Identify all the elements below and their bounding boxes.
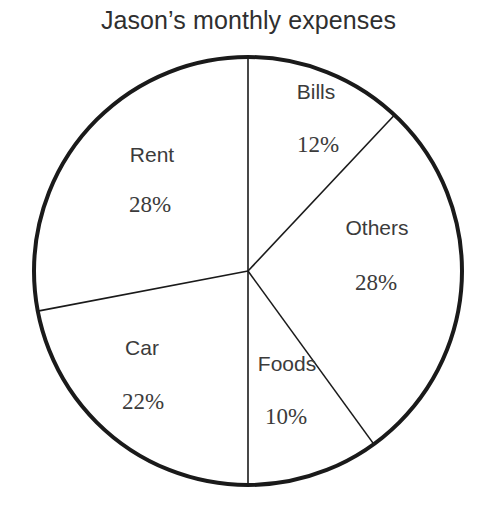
slice-label-foods: Foods [258, 352, 316, 376]
chart-page: Jason’s monthly expenses Bills12%Others2… [0, 0, 497, 515]
slice-value-bills: 12% [297, 132, 339, 158]
slice-label-others: Others [345, 216, 408, 240]
slice-label-rent: Rent [130, 143, 174, 167]
slice-label-bills: Bills [297, 80, 336, 104]
slice-label-car: Car [125, 336, 159, 360]
slice-value-rent: 28% [129, 192, 171, 218]
pie-chart [0, 0, 497, 515]
slice-value-foods: 10% [265, 404, 307, 430]
slice-value-others: 28% [355, 270, 397, 296]
pie-slice-rent[interactable] [34, 57, 248, 311]
slice-value-car: 22% [122, 389, 164, 415]
